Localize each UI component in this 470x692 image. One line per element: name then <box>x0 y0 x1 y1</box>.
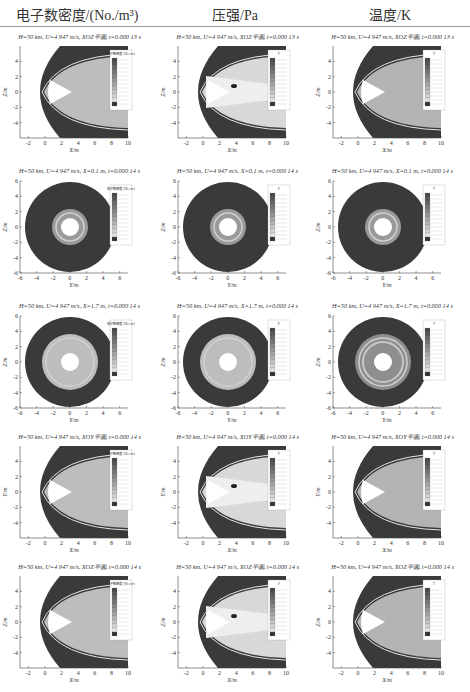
x-tick-label: 10 <box>438 540 444 546</box>
y-axis-label: Z/m <box>2 87 8 97</box>
y-tick-label: 0 <box>15 359 18 365</box>
x-tick-label: 6 <box>276 275 279 281</box>
column-title-temperature: 温度/K <box>315 4 465 24</box>
y-tick-label: -2 <box>171 104 176 110</box>
x-axis-label: X/m <box>226 677 237 683</box>
x-tick-label: 10 <box>283 670 289 676</box>
colorbar-legend: P <box>268 50 290 110</box>
x-tick-label: 4 <box>77 540 80 546</box>
x-tick-label: 10 <box>283 140 289 146</box>
x-tick-label: -6 <box>176 275 181 281</box>
column-header: 电子数密度/(No./m³) 压强/Pa 温度/K <box>0 0 470 27</box>
cross-section-contour-plot: -6-4-20246-6-4-20246Y/mZ/mT <box>315 312 470 430</box>
y-tick-label: 2 <box>15 209 18 215</box>
svg-text:T: T <box>433 187 435 191</box>
y-axis-label: Z/m <box>2 357 8 367</box>
x-tick-label: -2 <box>339 670 344 676</box>
x-tick-label: 0 <box>356 140 359 146</box>
x-tick-label: 0 <box>201 540 204 546</box>
x-tick-label: 0 <box>201 140 204 146</box>
y-tick-label: 4 <box>15 193 18 199</box>
side-view-contour-plot: -20246810-4-2024X/mY/m电子数密度 /(No./m³) <box>2 442 157 560</box>
x-tick-label: 4 <box>77 670 80 676</box>
y-axis-label: Y/m <box>2 487 8 497</box>
y-tick-label: -4 <box>326 520 331 526</box>
y-tick-label: 6 <box>328 313 331 319</box>
x-tick-label: -2 <box>26 540 31 546</box>
x-tick-label: 8 <box>110 140 113 146</box>
x-tick-label: 10 <box>438 670 444 676</box>
svg-text:电子数密度 /(No./m³): 电子数密度 /(No./m³) <box>107 51 135 56</box>
x-tick-label: 0 <box>43 670 46 676</box>
x-tick-label: 4 <box>77 140 80 146</box>
side-view-contour-plot: -20246810-4-2024X/mZ/mT <box>315 42 470 160</box>
x-tick-label: -4 <box>347 410 352 416</box>
y-tick-label: 0 <box>15 489 18 495</box>
colorbar-legend: P <box>268 450 290 510</box>
contour-panel: H=50 km, U=4 947 m/s, XOZ平面, t=0.000 13 … <box>315 30 470 160</box>
colorbar-legend: T <box>423 50 445 110</box>
svg-text:P: P <box>278 322 280 326</box>
x-tick-label: 0 <box>68 275 71 281</box>
panel-caption: H=50 km, U=4 947 m/s, X=1.7 m, t=0.000 1… <box>2 302 157 309</box>
x-tick-label: 2 <box>243 275 246 281</box>
x-tick-label: 8 <box>110 540 113 546</box>
x-axis-label: X/m <box>68 677 79 683</box>
y-tick-label: 4 <box>15 458 18 464</box>
colorbar-legend: 电子数密度 /(No./m³) <box>107 50 135 110</box>
x-tick-label: 4 <box>235 140 238 146</box>
x-tick-label: -2 <box>51 410 56 416</box>
y-tick-label: 0 <box>328 89 331 95</box>
contour-panel: H=50 km, U=4 947 m/s, XOY平面, t=0.000 14 … <box>315 430 470 560</box>
y-tick-label: -2 <box>171 374 176 380</box>
y-tick-label: -2 <box>171 634 176 640</box>
y-tick-label: 0 <box>173 489 176 495</box>
x-tick-label: 2 <box>373 540 376 546</box>
x-tick-label: -2 <box>51 275 56 281</box>
x-tick-label: 4 <box>235 670 238 676</box>
y-tick-label: 2 <box>328 344 331 350</box>
cross-section-contour-plot: -6-4-20246-6-4-20246Y/mZ/m电子数密度 /(No./m³… <box>2 312 157 430</box>
panel-caption: H=50 km, U=4 947 m/s, X=1.7 m, t=0.000 1… <box>160 302 315 309</box>
y-tick-label: 4 <box>173 58 176 64</box>
contour-panel: H=50 km, U=4 947 m/s, X=1.7 m, t=0.000 1… <box>160 300 315 430</box>
y-axis-label: Z/m <box>315 222 321 232</box>
x-tick-label: 4 <box>390 670 393 676</box>
y-tick-label: 0 <box>15 224 18 230</box>
svg-text:P: P <box>278 187 280 191</box>
x-tick-label: -2 <box>184 540 189 546</box>
y-tick-label: 6 <box>328 178 331 184</box>
side-view-contour-plot: -20246810-4-2024X/mY/mT <box>315 442 470 560</box>
x-tick-label: 2 <box>218 540 221 546</box>
svg-text:T: T <box>433 322 435 326</box>
x-tick-label: -4 <box>347 275 352 281</box>
y-tick-label: 0 <box>328 359 331 365</box>
x-axis-label: X/m <box>68 547 79 553</box>
y-tick-label: -4 <box>13 390 18 396</box>
y-tick-label: 0 <box>173 359 176 365</box>
y-tick-label: 2 <box>328 474 331 480</box>
y-tick-label: 2 <box>173 474 176 480</box>
y-axis-label: Z/m <box>315 87 321 97</box>
y-tick-label: 6 <box>15 178 18 184</box>
y-tick-label: 4 <box>15 58 18 64</box>
y-axis-label: Z/m <box>315 357 321 367</box>
colorbar-legend: 电子数密度 /(No./m³) <box>107 580 135 640</box>
contour-panel: H=50 km, U=4 947 m/s, X=1.7 m, t=0.000 1… <box>315 300 470 430</box>
x-tick-label: 4 <box>102 410 105 416</box>
x-axis-label: X/m <box>226 547 237 553</box>
side-view-contour-plot: -20246810-4-2024X/mZ/mT <box>315 572 470 690</box>
x-tick-label: 2 <box>373 670 376 676</box>
x-tick-label: 8 <box>268 140 271 146</box>
contour-panel: H=50 km, U=4 947 m/s, X=0.1 m, t=0.000 1… <box>160 165 315 295</box>
y-tick-label: 2 <box>15 74 18 80</box>
x-tick-label: 10 <box>125 140 131 146</box>
y-tick-label: 0 <box>15 89 18 95</box>
colorbar-legend: P <box>268 185 290 245</box>
x-tick-label: 4 <box>260 410 263 416</box>
y-tick-label: -6 <box>13 405 18 411</box>
contour-panel: H=50 km, U=4 947 m/s, X=0.1 m, t=0.000 1… <box>315 165 470 295</box>
y-tick-label: -4 <box>13 520 18 526</box>
x-tick-label: 6 <box>251 140 254 146</box>
y-tick-label: 4 <box>328 193 331 199</box>
